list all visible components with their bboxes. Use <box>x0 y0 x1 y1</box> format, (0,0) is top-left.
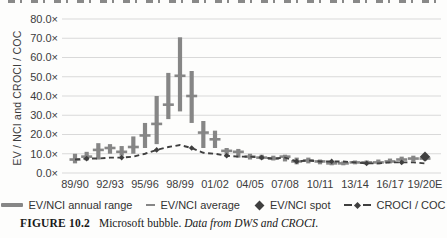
legend-item-spot: EV/NCI spot <box>254 199 331 211</box>
y-tick-label: 50.0× <box>30 71 58 83</box>
figure-10-2: 0.0×10.0×20.0×30.0×40.0×50.0×60.0×70.0×8… <box>0 0 447 238</box>
y-tick-label: 80.0× <box>30 13 58 25</box>
legend: EV/NCI annual range EV/NCI average EV/NC… <box>0 199 447 211</box>
x-tick-label: 13/14 <box>341 178 369 190</box>
legend-item-croci-coc: CROCI / COC <box>344 199 445 211</box>
x-tick-label: 04/05 <box>236 178 264 190</box>
x-tick-label: 92/93 <box>96 178 124 190</box>
x-tick-label: 98/99 <box>166 178 194 190</box>
y-tick-label: 10.0× <box>30 148 58 160</box>
croci-coc-marker <box>189 145 195 151</box>
legend-item-annual-range: EV/NCI annual range <box>1 199 132 211</box>
average-dash-swatch-icon <box>146 204 155 207</box>
legend-label: EV/NCI average <box>160 199 239 211</box>
y-tick-label: 40.0× <box>30 90 58 102</box>
caption-label: FIGURE 10.2 <box>20 217 90 229</box>
x-tick-label: 89/90 <box>61 178 89 190</box>
legend-label: EV/NCI spot <box>270 199 331 211</box>
y-tick-label: 70.0× <box>30 32 58 44</box>
y-tick-label: 20.0× <box>30 128 58 140</box>
y-tick-label: 60.0× <box>30 51 58 63</box>
chart: 0.0×10.0×20.0×30.0×40.0×50.0×60.0×70.0×8… <box>0 0 447 196</box>
legend-item-average: EV/NCI average <box>146 199 239 211</box>
spot-marker <box>420 151 430 161</box>
legend-label: CROCI / COC <box>376 199 445 211</box>
legend-label: EV/NCI annual range <box>28 199 132 211</box>
x-tick-label: 95/96 <box>131 178 159 190</box>
caption-source: Data from DWS and CROCI. <box>184 217 318 229</box>
caption-title: Microsoft bubble. <box>99 217 181 229</box>
y-tick-label: 0.0× <box>36 167 58 179</box>
x-tick-label: 19/20E <box>408 178 443 190</box>
y-tick-label: 30.0× <box>30 109 58 121</box>
x-tick-label: 10/11 <box>307 178 334 190</box>
range-bar-swatch-icon <box>1 203 23 208</box>
dashed-line-swatch-icon <box>344 203 371 208</box>
x-tick-label: 01/02 <box>201 178 229 190</box>
croci-coc-marker <box>154 147 160 153</box>
figure-caption: FIGURE 10.2Microsoft bubble. Data from D… <box>20 217 443 229</box>
x-tick-label: 16/17 <box>376 178 404 190</box>
x-tick-label: 07/08 <box>271 178 299 190</box>
diamond-swatch-icon <box>254 200 264 210</box>
y-axis-title: EV / NCI and CROCI / COC <box>11 3 25 193</box>
